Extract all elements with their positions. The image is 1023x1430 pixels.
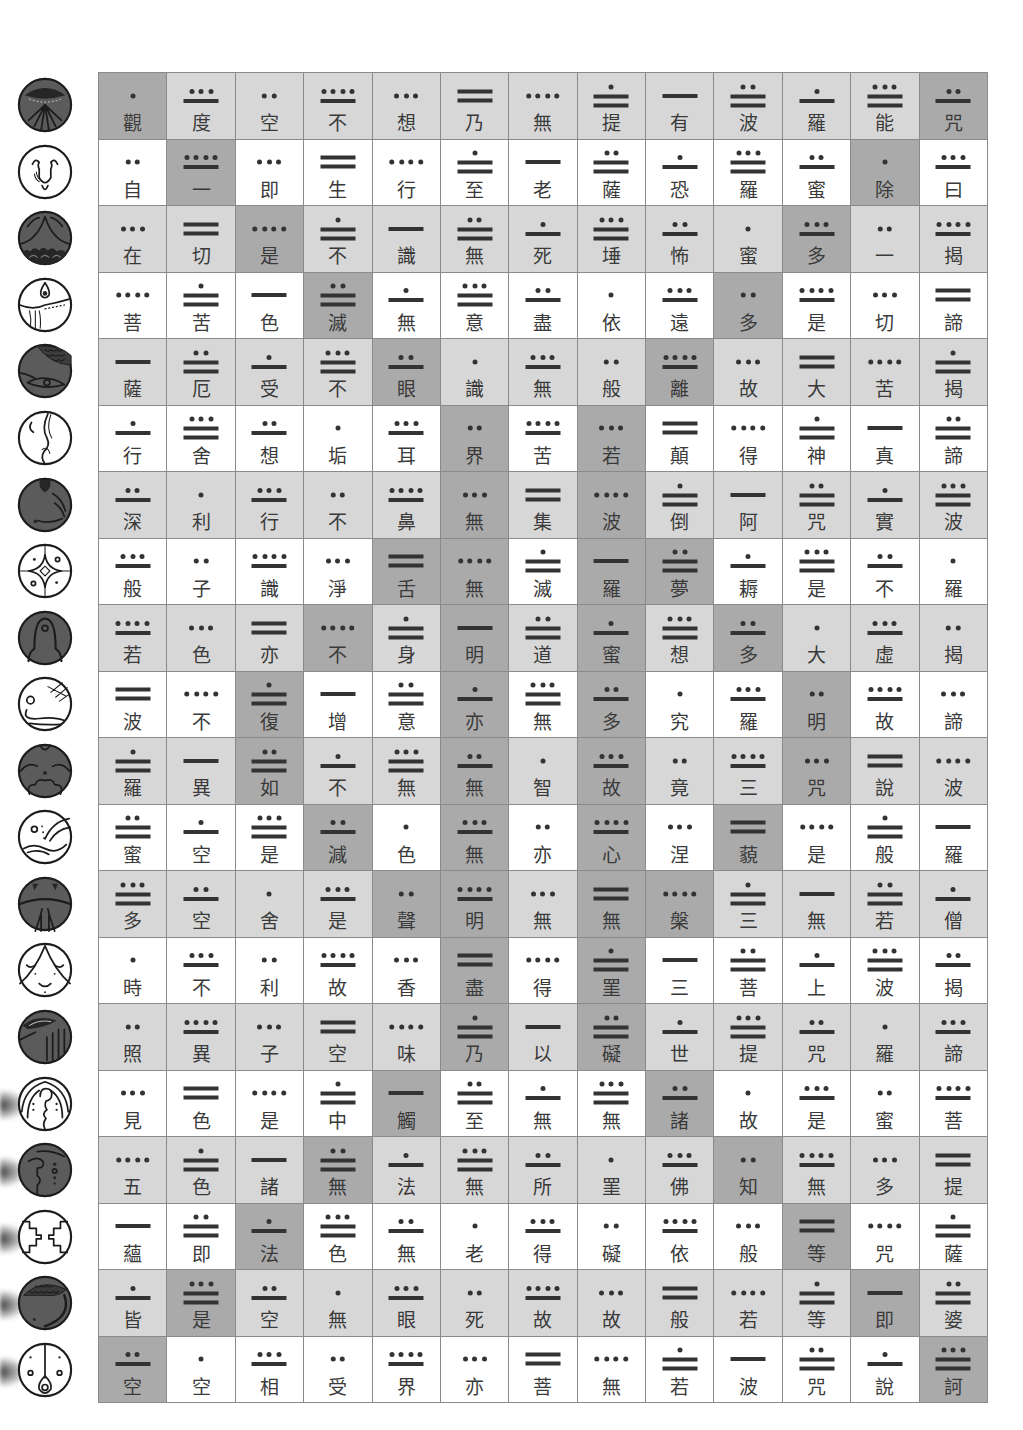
numeral-bar xyxy=(867,826,902,830)
grid-cell: 異 xyxy=(167,1004,235,1071)
numeral-dot xyxy=(399,1024,404,1029)
maya-numeral xyxy=(320,350,355,373)
sutra-character: 等 xyxy=(783,1244,850,1263)
maya-numeral xyxy=(868,359,902,364)
grid-cell: 般 xyxy=(646,1270,714,1337)
grid-cell: 般 xyxy=(714,1204,782,1271)
grid-cell: 般 xyxy=(851,805,919,872)
maya-numeral xyxy=(662,422,697,435)
numeral-dot xyxy=(531,683,536,688)
numeral-dot xyxy=(350,953,355,958)
maya-numeral xyxy=(799,1086,834,1100)
maya-numeral xyxy=(936,1153,971,1166)
numeral-bar xyxy=(320,963,355,967)
grid-cell: 舍 xyxy=(236,871,304,938)
numeral-dot xyxy=(267,816,272,821)
grid-cell: 異 xyxy=(167,738,235,805)
grid-cell: 無 xyxy=(509,73,577,140)
maya-numeral xyxy=(320,156,355,169)
numeral-bar xyxy=(320,1234,355,1238)
numeral-dots xyxy=(878,554,893,559)
numeral-dot xyxy=(746,226,751,231)
grid-cell: 老 xyxy=(509,140,577,207)
maya-numeral xyxy=(867,949,902,972)
maya-numeral xyxy=(662,1153,697,1167)
numeral-bar xyxy=(115,892,150,896)
numeral-dot xyxy=(472,687,477,692)
numeral-dots xyxy=(531,891,555,896)
numeral-dot xyxy=(276,816,281,821)
imix-day-sign-icon xyxy=(15,72,75,139)
numeral-dot xyxy=(956,953,961,958)
sutra-character: 涅 xyxy=(646,845,713,864)
sutra-character: 子 xyxy=(236,1045,303,1064)
sutra-character: 亦 xyxy=(509,845,576,864)
numeral-dots xyxy=(394,93,418,98)
numeral-dot xyxy=(882,1157,887,1162)
numeral-dots xyxy=(463,492,487,497)
sutra-character: 知 xyxy=(714,1178,781,1197)
grid-cell: 界 xyxy=(441,406,509,473)
maya-numeral xyxy=(936,953,971,967)
maya-numeral xyxy=(394,93,418,98)
akbal-day-sign-icon xyxy=(15,205,75,272)
sutra-character: 薩 xyxy=(99,380,166,399)
numeral-bar xyxy=(799,1291,834,1295)
grid-cell: 咒 xyxy=(783,472,851,539)
sutra-character: 波 xyxy=(714,1377,781,1396)
sutra-character: 舍 xyxy=(236,912,303,931)
numeral-dot xyxy=(746,554,751,559)
sutra-character: 無 xyxy=(441,845,508,864)
maya-numeral xyxy=(184,887,219,901)
sutra-character: 行 xyxy=(373,180,440,199)
numeral-dot xyxy=(536,1153,541,1158)
sutra-character: 色 xyxy=(373,845,440,864)
numeral-dot xyxy=(692,891,697,896)
numeral-dots xyxy=(937,222,971,227)
numeral-bar xyxy=(115,688,150,692)
numeral-dot xyxy=(677,692,682,697)
sutra-character: 想 xyxy=(646,646,713,665)
numeral-dots xyxy=(463,1148,487,1153)
sutra-character: 多 xyxy=(714,313,781,332)
maya-numeral xyxy=(746,1091,751,1096)
maya-numeral xyxy=(799,222,834,236)
numeral-dot xyxy=(418,1024,423,1029)
numeral-dot xyxy=(809,155,814,160)
numeral-dot xyxy=(956,1086,961,1091)
sutra-character: 行 xyxy=(99,446,166,465)
numeral-dots xyxy=(604,1015,619,1020)
sutra-character: 無 xyxy=(441,579,508,598)
numeral-dot xyxy=(404,749,409,754)
maya-numeral xyxy=(525,1353,560,1366)
numeral-dot xyxy=(272,958,277,963)
maya-numeral xyxy=(936,222,971,236)
numeral-bar xyxy=(731,631,766,635)
numeral-dot xyxy=(267,160,272,165)
grid-cell: 上 xyxy=(783,938,851,1005)
maya-numeral xyxy=(320,754,355,768)
numeral-dot xyxy=(814,625,819,630)
numeral-bar xyxy=(320,369,355,373)
sutra-character: 切 xyxy=(851,313,918,332)
grid-cell: 無 xyxy=(373,273,441,340)
numeral-dot xyxy=(800,1153,805,1158)
grid-cell: 無 xyxy=(509,672,577,739)
numeral-bar xyxy=(457,830,492,834)
grid-cell: 世 xyxy=(646,1004,714,1071)
numeral-dot xyxy=(413,1286,418,1291)
numeral-bar xyxy=(184,165,219,169)
numeral-dots xyxy=(668,288,692,293)
grid-cell: 得 xyxy=(714,406,782,473)
numeral-bar xyxy=(799,560,834,564)
numeral-dot xyxy=(536,958,541,963)
numeral-dot xyxy=(828,825,833,830)
numeral-dots xyxy=(951,1215,956,1220)
maya-numeral xyxy=(184,1215,219,1238)
numeral-dots xyxy=(116,293,150,298)
sutra-character: 老 xyxy=(509,180,576,199)
numeral-dot xyxy=(878,359,883,364)
sutra-character: 明 xyxy=(783,712,850,731)
numeral-dots xyxy=(868,1224,902,1229)
numeral-dots xyxy=(595,820,629,825)
